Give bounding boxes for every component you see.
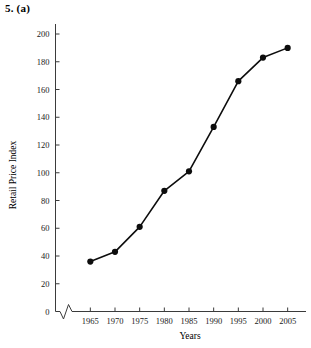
data-series [87,45,291,265]
y-axis-ticks [56,34,60,312]
y-tick-label: 200 [37,29,50,39]
y-tick-label: 120 [37,140,50,150]
y-tick-label: 180 [37,57,50,67]
x-tick-label: 1975 [131,316,148,326]
data-point [137,224,143,230]
x-tick-label: 2000 [255,316,272,326]
x-tick-label: 1965 [82,316,99,326]
y-tick-label: 60 [41,223,50,233]
figure-container: 5. (a) 020406080100120140160180200 19651… [0,0,311,348]
x-axis-title: Years [179,331,201,341]
data-point [285,45,291,51]
y-tick-label: 80 [41,196,50,206]
x-tick-label: 1990 [205,316,222,326]
series-line [90,48,287,262]
x-axis: 196519701975198019851990199520002005 [56,305,307,326]
x-tick-label: 1970 [107,316,124,326]
x-tick-label: 1980 [156,316,173,326]
y-axis-tick-labels: 020406080100120140160180200 [37,29,50,317]
y-axis-title: Retail Price Index [8,140,18,209]
series-markers [87,45,291,265]
x-axis-break-icon [56,305,73,320]
data-point [161,188,167,194]
y-axis: 020406080100120140160180200 [37,24,60,317]
chart-plot-area: 020406080100120140160180200 196519701975… [0,0,311,348]
x-tick-label: 2005 [279,316,296,326]
y-tick-label: 0 [45,307,49,317]
data-point [112,249,118,255]
data-point [87,258,93,264]
data-point [260,54,266,60]
y-tick-label: 140 [37,112,50,122]
y-tick-label: 100 [37,168,50,178]
x-axis-tick-labels: 196519701975198019851990199520002005 [82,316,296,326]
data-point [186,168,192,174]
x-tick-label: 1985 [181,316,198,326]
y-tick-label: 160 [37,85,50,95]
data-point [235,78,241,84]
data-point [211,124,217,130]
line-chart: 020406080100120140160180200 196519701975… [0,0,311,348]
y-tick-label: 40 [41,251,50,261]
x-axis-ticks [90,308,287,312]
y-tick-label: 20 [41,279,50,289]
x-tick-label: 1995 [230,316,247,326]
